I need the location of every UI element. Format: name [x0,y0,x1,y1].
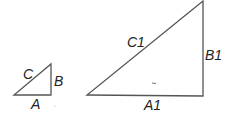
large-triangle [87,1,203,96]
label-large-base: A1 [144,98,161,112]
stray-mark [152,83,156,84]
label-small-hypotenuse: C [23,67,33,81]
label-large-hypotenuse: C1 [127,35,145,49]
label-small-base: A [31,97,40,111]
label-large-vertical-leg: B1 [205,48,222,62]
stray-dot [54,105,55,106]
label-small-vertical-leg: B [54,74,63,88]
